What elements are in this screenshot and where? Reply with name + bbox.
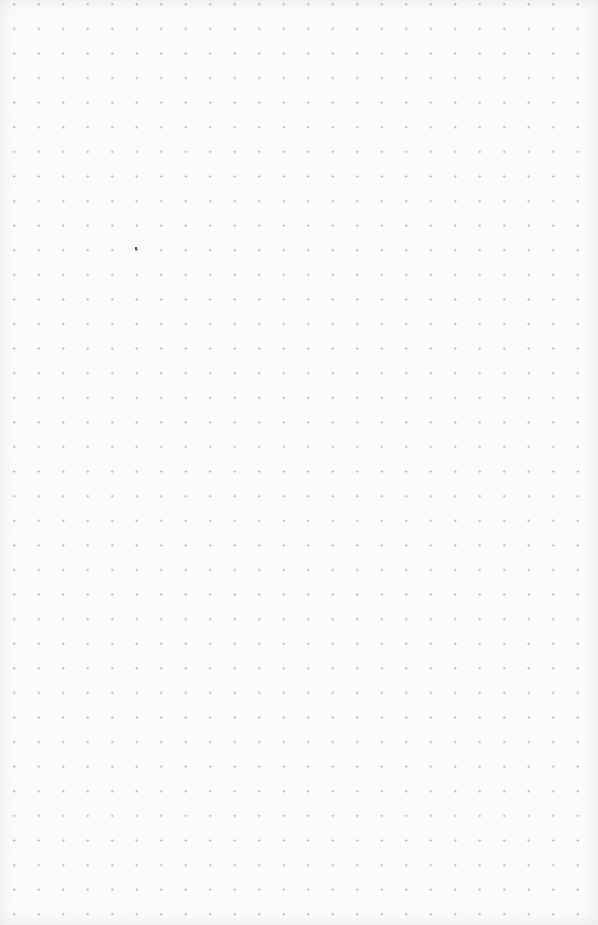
dot-grid-page [0, 0, 598, 925]
stray-mark [135, 247, 137, 250]
